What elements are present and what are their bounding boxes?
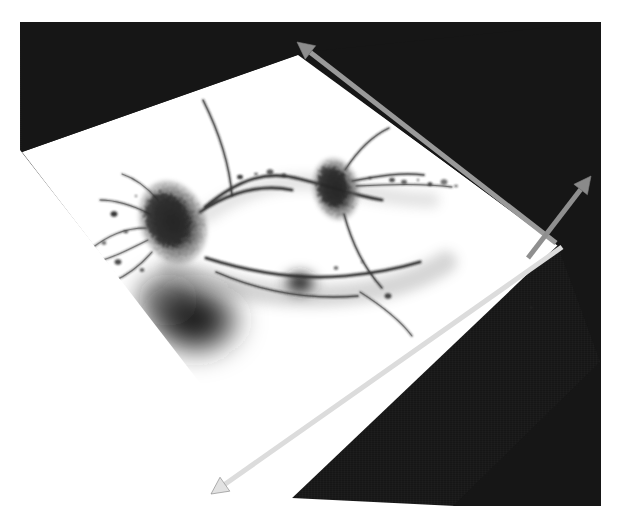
lower-right-dark-wedge (452, 358, 604, 507)
punctum (135, 195, 137, 197)
punctum (334, 266, 339, 270)
punctum (361, 261, 363, 263)
punctum (267, 169, 274, 174)
figure-canvas (0, 0, 619, 530)
scene-vector-layer (0, 0, 619, 530)
punctum (102, 241, 107, 245)
punctum (441, 179, 448, 184)
punctum (115, 259, 122, 264)
punctum (428, 182, 433, 186)
punctum (124, 231, 128, 234)
punctum (254, 173, 258, 176)
punctum (140, 268, 145, 272)
punctum (401, 180, 407, 184)
punctum (282, 173, 287, 177)
punctum (369, 177, 371, 179)
punctum (111, 211, 118, 216)
punctum (454, 185, 458, 188)
punctum (237, 175, 243, 179)
punctum (385, 293, 392, 298)
punctum (417, 179, 419, 181)
punctum (389, 178, 395, 182)
